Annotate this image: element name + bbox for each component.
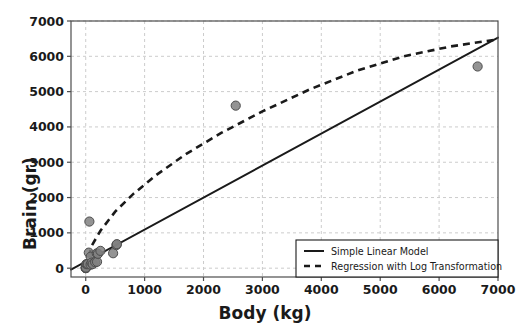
- x-tick-label: 4000: [304, 282, 339, 297]
- x-tick-label: 1000: [127, 282, 162, 297]
- x-axis-label: Body (kg): [0, 303, 530, 323]
- y-tick-label: 0: [55, 261, 64, 276]
- data-point: [85, 217, 94, 226]
- x-tick-label: 3000: [245, 282, 280, 297]
- x-axis-ticks: 01000200030004000500060007000: [81, 277, 515, 297]
- data-point: [112, 240, 121, 249]
- legend-label: Regression with Log Transformation: [331, 261, 502, 272]
- scatter-plot-canvas: 01000200030004000500060007000 0100020003…: [0, 0, 530, 332]
- data-point: [231, 101, 240, 110]
- x-tick-label: 6000: [422, 282, 457, 297]
- chart-figure: 01000200030004000500060007000 0100020003…: [0, 0, 530, 332]
- x-tick-label: 2000: [186, 282, 221, 297]
- y-tick-label: 6000: [29, 49, 64, 64]
- legend-label: Simple Linear Model: [331, 246, 428, 257]
- legend: Simple Linear ModelRegression with Log T…: [296, 240, 502, 277]
- x-tick-label: 5000: [363, 282, 398, 297]
- x-tick-label: 7000: [481, 282, 516, 297]
- y-axis-label: Brain (gr): [20, 157, 40, 250]
- y-tick-label: 5000: [29, 84, 64, 99]
- y-tick-label: 4000: [29, 119, 64, 134]
- data-point: [96, 246, 105, 255]
- plot-background: [71, 21, 498, 277]
- y-tick-label: 7000: [29, 14, 64, 29]
- x-tick-label: 0: [81, 282, 90, 297]
- data-point: [473, 62, 482, 71]
